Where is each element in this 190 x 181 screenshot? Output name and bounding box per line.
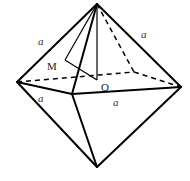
octahedron-diagram: a a M O a a: [0, 0, 190, 181]
label-point-o: O: [101, 81, 109, 93]
label-edge-top-right: a: [141, 28, 147, 40]
label-point-m: M: [47, 60, 57, 72]
edge-front-right: [72, 87, 181, 94]
edge-right-bottom: [97, 87, 181, 167]
label-edge-front-right: a: [113, 96, 119, 108]
label-edge-top-left: a: [38, 35, 44, 47]
hidden-edge-top-back: [97, 4, 134, 72]
apothem-line-apex-to-m: [65, 4, 97, 60]
edge-top-left: [17, 4, 97, 82]
label-edge-front-left: a: [38, 92, 44, 104]
edge-front-bottom: [72, 94, 97, 167]
edge-left-bottom: [17, 82, 97, 167]
